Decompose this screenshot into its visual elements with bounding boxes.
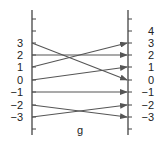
- domain-label: 1: [17, 61, 23, 73]
- domain-label: −1: [10, 86, 23, 98]
- codomain-label: 4: [148, 25, 154, 37]
- codomain-label: 2: [148, 49, 154, 61]
- domain-label: 3: [17, 37, 23, 49]
- mapping-arrows: [32, 43, 127, 117]
- codomain-labels: 4 3 2 1 0 −1 −2 −3: [141, 25, 154, 123]
- domain-labels: 3 2 1 0 −1 −2 −3: [10, 37, 23, 123]
- domain-label: −3: [10, 111, 23, 123]
- codomain-label: 0: [148, 74, 154, 86]
- codomain-label: 3: [148, 37, 154, 49]
- codomain-label: −3: [141, 111, 154, 123]
- domain-label: 0: [17, 74, 23, 86]
- codomain-axis: [128, 10, 132, 135]
- mapping-diagram: 3 2 1 0 −1 −2 −3 4 3 2 1 0 −1 −2 −3 g: [0, 0, 158, 141]
- codomain-label: −2: [141, 99, 154, 111]
- arrow-0-to-1: [32, 67, 127, 80]
- function-label: g: [77, 124, 83, 136]
- domain-label: −2: [10, 99, 23, 111]
- domain-label: 2: [17, 49, 23, 61]
- codomain-label: −1: [141, 86, 154, 98]
- arrow-3-to-0: [32, 43, 127, 80]
- codomain-label: 1: [148, 61, 154, 73]
